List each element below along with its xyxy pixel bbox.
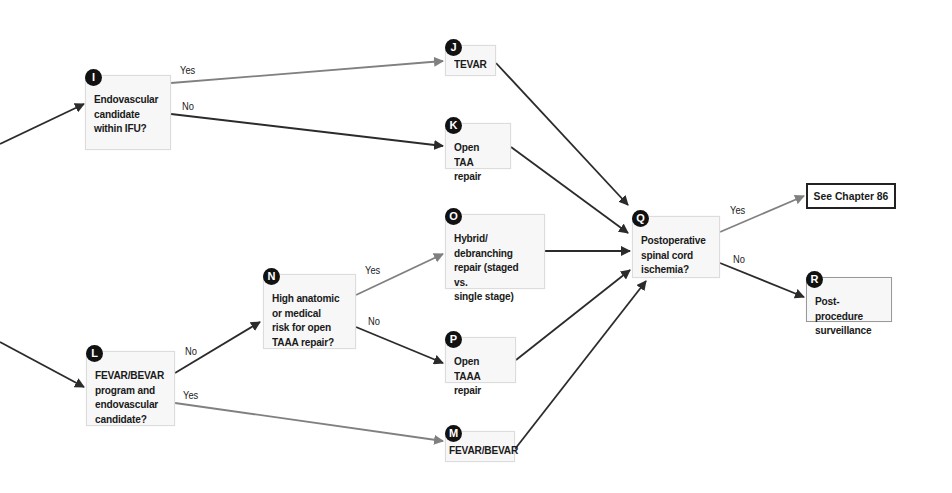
- badge-o: O: [445, 208, 462, 225]
- badge-q: Q: [632, 210, 649, 227]
- edge-label-n-yes: Yes: [365, 264, 380, 276]
- edge-label-i-yes: Yes: [180, 64, 195, 76]
- node-j-tevar: J TEVAR: [445, 45, 496, 76]
- node-m-text: FEVAR/BEVAR: [449, 443, 503, 458]
- edge-in-to-L: [0, 342, 84, 387]
- edge-I-J-yes: [171, 61, 443, 83]
- edge-L-M-yes: [175, 403, 443, 441]
- badge-i: I: [85, 69, 102, 86]
- edge-Q-R-no: [720, 263, 804, 297]
- edge-label-l-yes: Yes: [183, 389, 198, 401]
- node-l-fevar-bevar-program: L FEVAR/BEVAR program and endovascular c…: [86, 351, 175, 426]
- node-p-text: Open TAAA repair: [454, 354, 504, 398]
- edge-M-Q: [515, 281, 646, 449]
- node-l-text: FEVAR/BEVAR program and endovascular can…: [95, 368, 161, 426]
- edge-label-i-no: No: [182, 100, 194, 112]
- badge-j: J: [445, 39, 462, 56]
- edge-label-q-yes: Yes: [730, 204, 745, 216]
- badge-k: K: [445, 117, 462, 134]
- edge-label-q-no: No: [733, 253, 745, 265]
- badge-l: L: [86, 345, 103, 362]
- see-chapter-86-box: See Chapter 86: [806, 183, 896, 209]
- edge-in-to-I: [0, 104, 84, 144]
- node-q-spinal-cord-ischemia: Q Postoperative spinal cord ischemia?: [632, 216, 720, 278]
- see-chapter-86-text: See Chapter 86: [812, 190, 889, 202]
- node-o-text: Hybrid/ debranching repair (staged vs. s…: [454, 231, 530, 304]
- badge-n: N: [263, 268, 280, 285]
- node-m-fevar-bevar: M FEVAR/BEVAR: [445, 431, 515, 462]
- badge-m: M: [445, 425, 462, 442]
- node-i-text: Endovascular candidate within IFU?: [94, 92, 157, 136]
- edge-label-l-no: No: [185, 345, 197, 357]
- node-i-endovascular-candidate: I Endovascular candidate within IFU?: [85, 75, 171, 150]
- node-q-text: Postoperative spinal cord ischemia?: [641, 233, 706, 277]
- node-j-text: TEVAR: [454, 57, 487, 72]
- badge-r: R: [806, 271, 823, 288]
- node-p-open-taaa-repair: P Open TAAA repair: [445, 337, 516, 383]
- node-n-high-risk-open-repair: N High anatomic or medical risk for open…: [263, 274, 356, 349]
- badge-p: P: [445, 331, 462, 348]
- node-r-post-procedure-surveillance: R Post-procedure surveillance: [806, 277, 892, 322]
- edge-N-P-no: [356, 327, 443, 363]
- node-o-hybrid-debranching: O Hybrid/ debranching repair (staged vs.…: [445, 214, 545, 289]
- edge-I-K-no: [171, 114, 443, 146]
- node-r-text: Post-procedure surveillance: [815, 294, 878, 338]
- edge-label-n-no: No: [368, 315, 380, 327]
- node-n-text: High anatomic or medical risk for open T…: [272, 291, 342, 349]
- node-k-open-taa-repair: K Open TAA repair: [445, 123, 511, 169]
- node-k-text: Open TAA repair: [454, 140, 500, 184]
